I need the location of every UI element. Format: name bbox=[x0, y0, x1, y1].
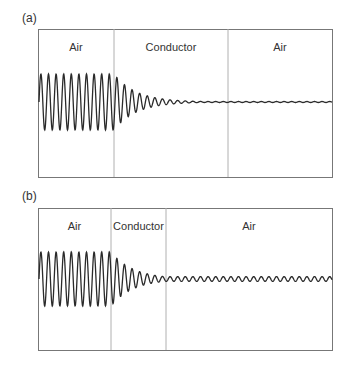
wave-diagram bbox=[0, 0, 349, 374]
panel-a-wave bbox=[39, 74, 332, 130]
panel-b-wave bbox=[39, 252, 332, 306]
